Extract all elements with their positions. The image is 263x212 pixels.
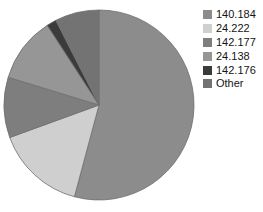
pie-plot-area — [0, 0, 200, 212]
legend-swatch-icon — [203, 10, 212, 19]
legend-item-1[interactable]: 24.222 — [203, 22, 263, 36]
legend-item-0[interactable]: 140.184 — [203, 8, 263, 22]
legend-item-label: 24.222 — [216, 23, 250, 34]
legend-swatch-icon — [203, 38, 212, 47]
pie-slice-group — [4, 10, 194, 200]
legend-item-label: 142.177 — [216, 37, 256, 48]
legend-swatch-icon — [203, 52, 212, 61]
legend-item-label: 140.184 — [216, 9, 256, 20]
legend-item-3[interactable]: 24.138 — [203, 49, 263, 63]
pie-chart: 140.184 24.222 142.177 24.138 142.176 Ot… — [0, 0, 263, 212]
chart-legend: 140.184 24.222 142.177 24.138 142.176 Ot… — [203, 8, 263, 91]
legend-swatch-icon — [203, 79, 212, 88]
legend-item-5[interactable]: Other — [203, 77, 263, 91]
legend-swatch-icon — [203, 24, 212, 33]
legend-swatch-icon — [203, 66, 212, 75]
legend-item-label: Other — [216, 78, 244, 89]
legend-item-label: 142.176 — [216, 65, 256, 76]
legend-item-2[interactable]: 142.177 — [203, 36, 263, 50]
legend-item-label: 24.138 — [216, 51, 250, 62]
legend-item-4[interactable]: 142.176 — [203, 63, 263, 77]
pie-svg — [0, 0, 200, 212]
